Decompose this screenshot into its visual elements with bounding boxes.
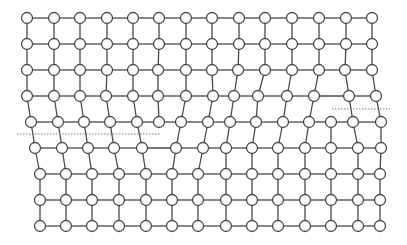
atom-node <box>348 117 359 128</box>
atom-node <box>128 65 139 76</box>
atom-node <box>35 169 46 180</box>
atom-node <box>309 91 320 102</box>
atom-node <box>260 65 271 76</box>
atom-node <box>128 39 139 50</box>
atom-node <box>171 143 182 154</box>
atom-node <box>278 117 289 128</box>
atom-node <box>153 65 164 76</box>
atom-node <box>287 13 298 24</box>
atom-node <box>314 13 325 24</box>
atom-node <box>193 195 204 206</box>
atom-node <box>87 169 98 180</box>
atom-node <box>137 143 148 154</box>
atom-node <box>367 65 378 76</box>
atom-node <box>87 195 98 206</box>
atom-node <box>375 195 386 206</box>
atom-node <box>341 39 352 50</box>
atom-node <box>153 91 164 102</box>
atom-node <box>371 91 382 102</box>
atom-node <box>198 143 209 154</box>
atom-node <box>141 195 152 206</box>
atom-node <box>304 117 315 128</box>
atom-node <box>234 39 245 50</box>
atom-node <box>102 65 113 76</box>
atom-node <box>35 195 46 206</box>
atom-node <box>193 169 204 180</box>
atom-node <box>109 143 120 154</box>
atom-node <box>181 91 192 102</box>
atom-node <box>340 65 351 76</box>
atom-node <box>141 221 152 232</box>
atom-node <box>300 195 311 206</box>
atom-node <box>79 117 90 128</box>
atom-node <box>234 13 245 24</box>
atom-node <box>181 65 192 76</box>
atom-node <box>102 39 113 50</box>
atom-node <box>154 117 165 128</box>
atom-node <box>247 195 258 206</box>
atom-node <box>353 169 364 180</box>
atom-node <box>300 221 311 232</box>
atom-node <box>273 143 284 154</box>
atom-node <box>341 13 352 24</box>
atom-node <box>30 143 41 154</box>
atom-node <box>353 221 364 232</box>
atom-node <box>287 39 298 50</box>
atom-node <box>247 169 258 180</box>
atom-node <box>273 169 284 180</box>
atom-node <box>87 221 98 232</box>
atom-node <box>132 117 143 128</box>
atom-node <box>167 195 178 206</box>
atom-node <box>22 39 33 50</box>
atom-node <box>83 143 94 154</box>
atom-node <box>102 13 113 24</box>
atom-node <box>229 91 240 102</box>
atom-node <box>75 39 86 50</box>
atom-node <box>247 221 258 232</box>
atom-node <box>53 117 64 128</box>
atom-node <box>181 13 192 24</box>
atom-node <box>22 65 33 76</box>
atom-node <box>61 195 72 206</box>
atom-node <box>300 169 311 180</box>
atom-node <box>221 169 232 180</box>
atom-node <box>35 221 46 232</box>
atom-node <box>221 143 232 154</box>
atom-node <box>105 117 116 128</box>
atom-node <box>375 169 386 180</box>
atom-node <box>181 39 192 50</box>
atom-node <box>128 13 139 24</box>
atom-node <box>353 143 364 154</box>
atom-node <box>114 195 125 206</box>
atom-node <box>367 39 378 50</box>
atom-node <box>57 143 68 154</box>
atom-node <box>326 221 337 232</box>
atom-node <box>207 65 218 76</box>
atom-node <box>114 169 125 180</box>
atom-node <box>167 169 178 180</box>
atom-node <box>233 65 244 76</box>
atom-node <box>61 169 72 180</box>
atom-node <box>203 117 214 128</box>
atom-node <box>114 221 125 232</box>
atom-node <box>300 143 311 154</box>
atom-node <box>326 117 337 128</box>
atom-node <box>344 91 355 102</box>
atom-node <box>221 221 232 232</box>
atom-node <box>225 117 236 128</box>
atom-node <box>101 91 112 102</box>
atom-node <box>75 65 86 76</box>
atom-node <box>49 13 60 24</box>
atom-node <box>208 91 219 102</box>
atom-node <box>260 13 271 24</box>
atom-node <box>22 91 33 102</box>
atom-node <box>75 13 86 24</box>
atom-node <box>273 195 284 206</box>
atom-node <box>128 91 139 102</box>
atom-node <box>287 65 298 76</box>
atom-node <box>61 221 72 232</box>
atom-node <box>326 143 337 154</box>
atom-node <box>326 169 337 180</box>
atom-node <box>167 221 178 232</box>
atom-node <box>251 117 262 128</box>
